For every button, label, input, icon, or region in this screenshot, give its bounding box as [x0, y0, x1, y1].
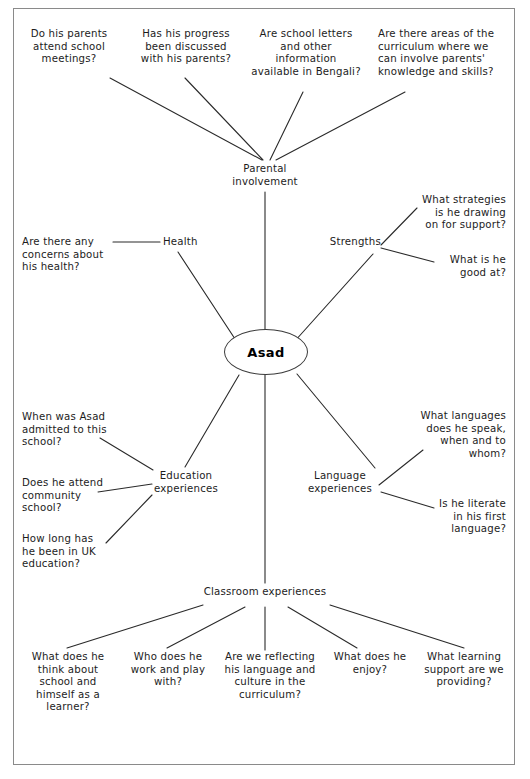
question-parental-letters-bengali: Are school letters and other information… [250, 28, 362, 78]
question-language-speaks: What languages does he speak, when and t… [408, 410, 506, 460]
question-classroom-work-and-play: Who does he work and play with? [122, 651, 214, 689]
question-health-concerns: Are there any concerns about his health? [22, 236, 114, 274]
question-strengths-strategies: What strategies is he drawing on for sup… [402, 194, 506, 232]
branch-label-strengths[interactable]: Strengths [319, 236, 381, 249]
branch-label-parental-involvement[interactable]: Parental involvement [216, 163, 314, 188]
branch-label-language-experiences[interactable]: Language experiences [300, 470, 380, 495]
question-education-admitted: When was Asad admitted to this school? [22, 411, 118, 449]
center-node-label: Asad [247, 345, 284, 360]
question-classroom-enjoy: What does he enjoy? [326, 651, 414, 676]
question-education-uk-duration: How long has he been in UK education? [22, 533, 118, 571]
center-node[interactable]: Asad [224, 329, 308, 375]
figure-caption [14, 771, 514, 779]
question-classroom-self-as-learner: What does he think about school and hims… [22, 651, 114, 714]
branch-label-health[interactable]: Health [163, 236, 223, 249]
question-classroom-learning-support: What learning support are we providing? [418, 651, 510, 689]
branch-label-education-experiences[interactable]: Education experiences [148, 470, 224, 495]
question-language-literate-first: Is he literate in his first language? [418, 498, 506, 536]
question-education-community-school: Does he attend community school? [22, 477, 118, 515]
figure-root: Asad Do his parents attend school meetin… [0, 0, 530, 779]
question-strengths-good-at: What is he good at? [418, 254, 506, 279]
question-classroom-reflect-culture: Are we reflecting his language and cultu… [218, 651, 322, 701]
question-parental-progress-discussed: Has his progress been discussed with his… [132, 28, 240, 66]
question-parental-curriculum-involve: Are there areas of the curriculum where … [378, 28, 508, 78]
question-parental-meetings: Do his parents attend school meetings? [20, 28, 118, 66]
branch-label-classroom-experiences[interactable]: Classroom experiences [190, 586, 340, 599]
